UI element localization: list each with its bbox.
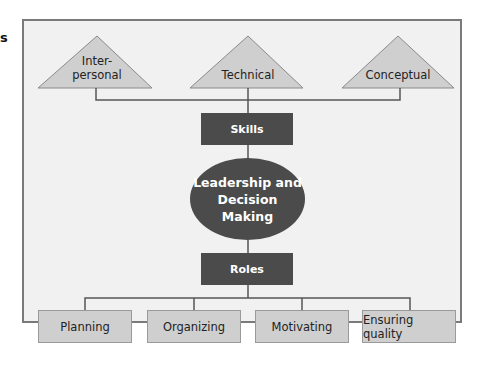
role-planning: Planning — [38, 310, 132, 343]
skill-interpersonal: Inter- personal — [62, 54, 132, 82]
roles-box: Roles — [201, 253, 293, 285]
role-ensuring-quality: Ensuring quality — [362, 310, 456, 343]
skill-conceptual: Conceptual — [358, 68, 438, 82]
role-motivating: Motivating — [255, 310, 349, 343]
leadership-decision-ellipse: Leadership and Decision Making — [190, 158, 305, 240]
skill-technical: Technical — [208, 68, 288, 82]
skills-box: Skills — [201, 113, 293, 145]
role-organizing: Organizing — [147, 310, 241, 343]
